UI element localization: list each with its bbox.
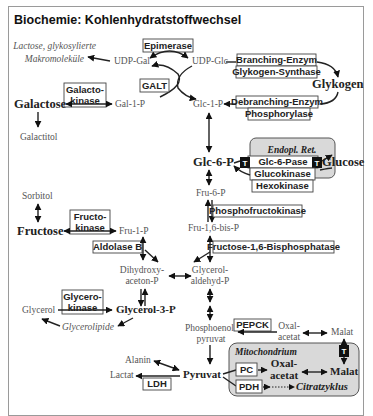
metabolite-glc-6-p: Glc-6-P [193, 155, 234, 169]
metabolite-gal-1-p: Gal-1-P [115, 99, 145, 109]
transporter-er-right-label: T [315, 159, 320, 168]
aldolase-b-dhap-arrow [145, 250, 158, 262]
metabolite-malat-mito: Malat [330, 365, 358, 377]
glc6p-er-line [234, 161, 240, 163]
enzyme-aldolase-b: Aldolase B [93, 241, 142, 252]
enzyme-glc-6-pase: Glc-6-Pase [258, 156, 307, 167]
alanin-pyruvat-arrow [154, 361, 179, 370]
enzyme-pdh: PDH [239, 381, 259, 392]
metabolite-glykogen: Glykogen [312, 77, 363, 91]
enzyme-phosphorylase: Phosphorylase [245, 108, 313, 119]
glycerolipide-glycerol-arrow [42, 319, 60, 326]
udpgal-lactose-arrow [88, 57, 110, 61]
metabolite-acetat: acetat [278, 332, 301, 342]
enzyme-epimerase: Epimerase [144, 40, 192, 51]
metabolite-glycerol-: Glycerol- [192, 265, 228, 275]
enzyme-galactokinase-line1: Galacto- [66, 84, 104, 95]
enzyme-pepck: PEPCK [236, 319, 269, 330]
enzyme-ldh: LDH [147, 378, 167, 389]
enzyme-glycerokinase-line1: Glycero- [63, 291, 102, 302]
metabolite-lactose: Lactose, glykosylierte [12, 41, 96, 51]
metabolite-glycerol-3-p: Glycerol-3-P [116, 303, 176, 315]
metabolite-udp-glc: UDP-Glc [192, 56, 228, 66]
enzyme-phosphofructokinase: Phosphofructokinase [209, 205, 306, 216]
enzyme-glucokinase: Glucokinase [254, 168, 311, 179]
enzyme-glykogen-synthase: Glykogen-Synthase [232, 66, 321, 77]
metabolite-fru-1-p: Fru-1-P [119, 226, 149, 236]
metabolite-glycerol: Glycerol [22, 305, 56, 315]
metabolite-aldehyd-p: aldehyd-P [191, 276, 230, 286]
enzyme-fructokinase-line1: Fructo- [74, 211, 107, 222]
transporter-mito-label: T [342, 347, 347, 356]
galt-arrow-2 [178, 66, 196, 99]
metabolite-aceton-p: aceton-P [125, 276, 158, 286]
metabolite-pyruvat-pep: pyruvat [196, 334, 225, 344]
enzyme-pc: PC [240, 364, 253, 375]
metabolite-makromolekuele: Makromoleküle [24, 54, 84, 64]
metabolite-oxal: Oxal- [278, 321, 300, 331]
metabolite-alanin: Alanin [125, 355, 151, 365]
metabolite-fructose: Fructose [17, 224, 64, 238]
aldolase-dhap-arrow [194, 252, 210, 262]
metabolite-fru-6-p: Fru-6-P [196, 188, 226, 198]
enzyme-hexokinase: Hexokinase [256, 180, 309, 191]
metabolite-lactat: Lactat [110, 370, 134, 380]
enzyme-glycerokinase-line2: kinase [68, 302, 98, 313]
g3p-glycerolipide-arrow [118, 318, 133, 326]
enzyme-branching: Branching-Enzym [236, 54, 317, 65]
metabolite-fru-16-bis-p: Fru-1,6-bis-P [188, 223, 239, 233]
er-label: Endopl. Ret. [267, 145, 317, 155]
metabolite-oxal-mito: Oxal- [271, 357, 298, 369]
metabolite-malat: Malat [331, 327, 354, 337]
metabolite-glc-1-p: Glc-1-P [193, 99, 223, 109]
metabolite-pyruvat: Pyruvat [183, 368, 221, 380]
metabolite-galactitol: Galactitol [20, 132, 58, 142]
metabolite-sorbitol: Sorbitol [22, 191, 53, 201]
metabolite-galactose: Galactose [14, 97, 67, 111]
metabolite-acetat-mito: acetat [270, 369, 298, 381]
metabolite-glycerolipide: Glycerolipide [62, 322, 114, 332]
mitochondrium-label: Mitochondrium [234, 347, 297, 357]
metabolite-dihydroxy: Dihydroxy- [120, 265, 164, 275]
metabolite-udp-gal: UDP-Gal [114, 56, 150, 66]
enzyme-fbpase: Fructose-1,6-Bisphosphatase [207, 241, 340, 252]
diagram-title: Biochemie: Kohlenhydratstoffwechsel [14, 13, 241, 27]
transporter-er-left-label: T [243, 159, 248, 168]
metabolite-citratzyklus: Citratzyklus [296, 381, 348, 392]
enzyme-galt: GALT [142, 80, 167, 91]
metabolite-phosphoenol: Phosphoenol- [185, 323, 237, 333]
enzyme-debranching: Debranching-Enzym [231, 96, 323, 107]
